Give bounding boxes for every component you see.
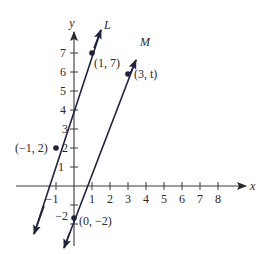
point-1-7 [89, 50, 95, 56]
y-tick-label-5: 5 [60, 84, 66, 98]
x-tick-label-3: 3 [125, 192, 131, 206]
y-tick-label-neg2: −2 [55, 209, 68, 223]
x-tick-label-5: 5 [161, 192, 167, 206]
point-0-neg2 [71, 215, 77, 221]
x-tick-label-4: 4 [143, 192, 149, 206]
point-label-3-t: (3, t) [134, 67, 157, 81]
x-tick-label-7: 7 [197, 192, 203, 206]
y-axis-label: y [68, 16, 75, 30]
line-l-label: L [103, 18, 111, 32]
y-tick-label-4: 4 [60, 103, 66, 117]
point-neg1-2 [53, 145, 59, 151]
coordinate-plane-figure: −1 1 2 3 4 5 6 7 8 x 1 2 3 4 5 6 7 −2 y … [0, 0, 270, 254]
y-tick-label-7: 7 [60, 46, 66, 60]
line-m-label: M [139, 35, 151, 49]
x-tick-label-8: 8 [215, 192, 221, 206]
y-tick-label-6: 6 [60, 65, 66, 79]
x-tick-label-2: 2 [107, 192, 113, 206]
point-label-1-7: (1, 7) [94, 56, 120, 70]
point-label-neg1-2: (−1, 2) [15, 141, 48, 155]
x-tick-label-1: 1 [89, 192, 95, 206]
point-label-0-neg2: (0, −2) [79, 214, 112, 228]
point-3-t [125, 71, 131, 77]
x-axis-label: x [249, 179, 256, 193]
y-tick-label-1: 1 [58, 160, 64, 174]
x-tick-label-6: 6 [179, 192, 185, 206]
